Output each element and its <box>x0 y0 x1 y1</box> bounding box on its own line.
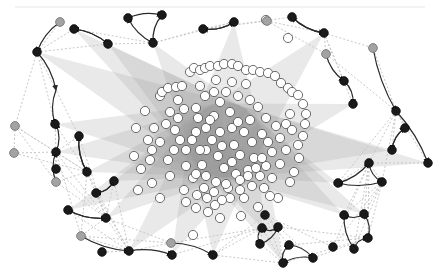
core-node[interactable] <box>221 179 230 188</box>
core-node[interactable] <box>253 102 262 111</box>
core-node[interactable] <box>251 163 260 172</box>
core-node[interactable] <box>241 79 250 88</box>
core-node[interactable] <box>170 125 179 134</box>
hub-node[interactable] <box>350 245 359 254</box>
core-node[interactable] <box>203 207 212 216</box>
core-node[interactable] <box>247 137 256 146</box>
core-node[interactable] <box>294 153 303 162</box>
hub-node[interactable] <box>158 11 167 20</box>
hub-node[interactable] <box>309 254 318 263</box>
core-node[interactable] <box>275 159 284 168</box>
core-node[interactable] <box>207 135 216 144</box>
hub-node[interactable] <box>288 13 297 22</box>
core-node[interactable] <box>192 190 201 199</box>
core-node[interactable] <box>247 181 256 190</box>
core-node[interactable] <box>173 113 182 122</box>
core-node[interactable] <box>215 97 224 106</box>
peripheral-node[interactable] <box>369 44 378 53</box>
hub-node[interactable] <box>388 146 397 155</box>
core-node[interactable] <box>245 95 254 104</box>
core-node[interactable] <box>188 230 197 239</box>
core-node[interactable] <box>300 119 309 128</box>
peripheral-node[interactable] <box>52 178 61 187</box>
hub-node[interactable] <box>149 39 158 48</box>
core-node[interactable] <box>253 202 262 211</box>
core-node[interactable] <box>205 115 214 124</box>
peripheral-node[interactable] <box>263 17 272 26</box>
core-node[interactable] <box>245 115 254 124</box>
core-node[interactable] <box>217 141 226 150</box>
core-node[interactable] <box>261 113 270 122</box>
core-node[interactable] <box>187 135 196 144</box>
hub-node[interactable] <box>33 48 42 57</box>
hub-node[interactable] <box>98 248 107 257</box>
core-node[interactable] <box>263 137 272 146</box>
core-node[interactable] <box>257 153 266 162</box>
hub-node[interactable] <box>378 178 387 187</box>
core-node[interactable] <box>257 129 266 138</box>
hub-node[interactable] <box>340 211 349 220</box>
hub-node[interactable] <box>199 25 208 34</box>
hub-node[interactable] <box>334 179 343 188</box>
hub-node[interactable] <box>51 120 60 129</box>
peripheral-node[interactable] <box>11 122 20 131</box>
core-node[interactable] <box>129 151 138 160</box>
hub-node[interactable] <box>364 234 373 243</box>
hub-node[interactable] <box>392 107 401 116</box>
core-node[interactable] <box>217 195 226 204</box>
core-node[interactable] <box>293 90 302 99</box>
core-node[interactable] <box>199 183 208 192</box>
hub-node[interactable] <box>349 100 358 109</box>
core-node[interactable] <box>177 81 186 90</box>
core-node[interactable] <box>283 33 292 42</box>
core-node[interactable] <box>287 125 296 134</box>
peripheral-node[interactable] <box>10 149 19 158</box>
core-node[interactable] <box>149 123 158 132</box>
core-node[interactable] <box>215 127 224 136</box>
core-node[interactable] <box>155 193 164 202</box>
core-node[interactable] <box>209 87 218 96</box>
core-node[interactable] <box>275 133 284 142</box>
core-node[interactable] <box>267 147 276 156</box>
core-node[interactable] <box>140 106 149 115</box>
core-node[interactable] <box>155 137 164 146</box>
core-node[interactable] <box>175 135 184 144</box>
core-node[interactable] <box>281 145 290 154</box>
core-node[interactable] <box>267 173 276 182</box>
hub-node[interactable] <box>124 14 133 23</box>
core-node[interactable] <box>215 213 224 222</box>
hub-node[interactable] <box>52 148 61 157</box>
core-node[interactable] <box>271 121 280 130</box>
core-node[interactable] <box>163 155 172 164</box>
core-node[interactable] <box>211 75 220 84</box>
core-node[interactable] <box>181 197 190 206</box>
hub-node[interactable] <box>92 189 101 198</box>
hub-node[interactable] <box>125 247 134 256</box>
core-node[interactable] <box>235 150 244 159</box>
core-node[interactable] <box>211 177 220 186</box>
core-node[interactable] <box>145 155 154 164</box>
hub-node[interactable] <box>104 40 113 49</box>
hub-node[interactable] <box>261 211 270 220</box>
peripheral-node[interactable] <box>77 232 86 241</box>
core-node[interactable] <box>235 185 244 194</box>
core-node[interactable] <box>165 171 174 180</box>
core-node[interactable] <box>147 145 156 154</box>
core-node[interactable] <box>191 103 200 112</box>
hub-node[interactable] <box>52 165 61 174</box>
core-node[interactable] <box>193 113 202 122</box>
hub-node[interactable] <box>285 241 294 250</box>
hub-node[interactable] <box>70 25 79 34</box>
core-node[interactable] <box>221 87 230 96</box>
core-node[interactable] <box>173 95 182 104</box>
peripheral-node[interactable] <box>322 50 331 59</box>
hub-node[interactable] <box>230 18 239 27</box>
core-node[interactable] <box>195 81 204 90</box>
hub-node[interactable] <box>83 168 92 177</box>
core-node[interactable] <box>289 167 298 176</box>
hub-node[interactable] <box>258 224 267 233</box>
core-node[interactable] <box>259 183 268 192</box>
hub-node[interactable] <box>401 124 410 133</box>
core-node[interactable] <box>225 107 234 116</box>
hub-node[interactable] <box>329 243 338 252</box>
